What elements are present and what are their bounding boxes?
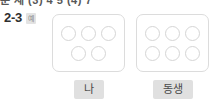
dot-box-sibling: [136, 14, 209, 72]
dot: [91, 46, 106, 61]
problem-label-row: 2-3 예: [4, 11, 36, 25]
dot: [185, 46, 200, 61]
group-sibling: 동생: [136, 14, 209, 99]
dot: [71, 46, 86, 61]
group-me: 나: [52, 14, 125, 99]
group-label-me: 나: [74, 80, 104, 99]
dot: [145, 46, 160, 61]
dot: [165, 26, 180, 41]
clipped-header-line: 문 제 (3) 4 5 (4) 7: [0, 0, 216, 7]
clipped-header-text: 문 제 (3) 4 5 (4) 7: [0, 0, 216, 6]
dot-row: [59, 26, 118, 41]
dot-box-me: [52, 14, 125, 72]
group-label-sibling: 동생: [153, 80, 193, 99]
dot-row: [143, 26, 202, 41]
problem-number: 2-3: [4, 11, 22, 25]
dot: [81, 26, 96, 41]
dot: [101, 26, 116, 41]
dot: [145, 26, 160, 41]
dot: [61, 26, 76, 41]
dot: [165, 46, 180, 61]
dot: [185, 26, 200, 41]
group-label-wrap-me: 나: [52, 80, 125, 99]
dot-row: [143, 46, 202, 61]
group-label-wrap-sibling: 동생: [136, 80, 209, 99]
dot-row: [59, 46, 118, 61]
example-badge: 예: [26, 13, 36, 24]
